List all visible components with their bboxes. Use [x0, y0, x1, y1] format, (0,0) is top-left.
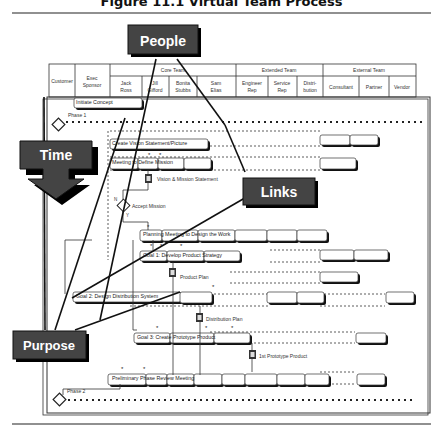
task-review-meeting: Preliminary Phase Review Meeting	[112, 375, 194, 381]
group-external-team: External Team	[353, 67, 385, 73]
milestone-asterisk-icon: *	[231, 325, 234, 331]
task-box	[267, 292, 297, 303]
col-vendor: Vendor	[394, 84, 410, 90]
task-box	[184, 158, 211, 169]
doc-product-plan: Product Plan	[180, 274, 209, 280]
group-extended-team: Extended Team	[262, 67, 297, 73]
decision-label: Accept Mission	[132, 203, 166, 209]
col-consultant: Consultant	[329, 84, 354, 90]
col-exec-1: Exec	[86, 75, 98, 81]
task-box	[320, 158, 356, 169]
links-label: Links	[261, 184, 298, 200]
document-icon	[196, 313, 203, 322]
task-create-vision: Create Vision Statement/Picture	[112, 140, 187, 146]
task-box	[194, 374, 222, 385]
col-sam: Sam	[211, 80, 221, 86]
task-initiate-concept: Initiate Concept	[76, 99, 113, 105]
virtual-team-process-diagram: Customer Exec Sponsor Core Team Extended…	[0, 0, 443, 432]
task-box	[297, 230, 327, 241]
people-callout: People	[128, 25, 201, 57]
task-box	[320, 250, 354, 260]
task-box	[214, 333, 250, 343]
col-exec-2: Sponsor	[83, 82, 102, 88]
col-service: Service	[274, 80, 291, 86]
task-box	[180, 292, 212, 303]
col-jack-2: Ross	[120, 87, 132, 93]
milestone-asterisk-icon: *	[212, 284, 215, 290]
task-box	[386, 292, 414, 303]
task-box	[350, 135, 378, 145]
phase-2-marker: Phase 2	[53, 388, 414, 406]
col-distribution: Distri-	[303, 80, 316, 86]
document-icon	[249, 350, 256, 359]
task-goal-1: Goal 1: Develop Product Strategy	[143, 252, 222, 258]
people-label: People	[140, 33, 186, 49]
decision-no: N	[114, 197, 117, 202]
doc-distribution-plan: Distribution Plan	[206, 316, 243, 322]
milestone-asterisk-icon: *	[159, 152, 162, 158]
doc-vision-mission: Vision & Mission Statement	[157, 176, 218, 182]
task-mission-meeting: Meeting to Define Mission	[112, 159, 173, 165]
task-box	[297, 292, 324, 303]
col-engineer: Engineer	[242, 80, 262, 86]
col-sam-2: Elias	[211, 87, 222, 93]
col-partner: Partner	[366, 84, 383, 90]
col-customer: Customer	[51, 78, 73, 84]
task-box	[356, 333, 386, 343]
group-core-team: Core Team	[161, 67, 185, 73]
task-box	[320, 135, 350, 145]
time-callout: Time	[20, 141, 98, 205]
task-box	[357, 374, 385, 385]
purpose-callout: Purpose	[13, 331, 89, 362]
task-box	[267, 230, 297, 241]
col-jack: Jack	[121, 80, 132, 86]
col-service-2: Rep	[277, 87, 286, 93]
document-icon	[169, 268, 176, 277]
milestone-asterisk-icon: *	[121, 366, 124, 372]
milestone-asterisk-icon: *	[180, 243, 183, 249]
col-bonita-2: Stubbs	[175, 87, 191, 93]
task-box	[354, 250, 388, 260]
task-goal-3: Goal 3: Create Prototype Product	[137, 334, 216, 340]
purpose-label: Purpose	[23, 338, 75, 353]
phase-1-marker: Phase 1	[52, 112, 424, 131]
decision-yes: Y	[126, 213, 129, 218]
milestone-asterisk-icon: *	[156, 325, 159, 331]
col-jill: Jill	[152, 80, 158, 86]
task-box	[305, 374, 329, 385]
task-box	[245, 374, 277, 385]
task-box	[277, 374, 305, 385]
milestone-asterisk-icon: *	[147, 224, 150, 230]
time-label: Time	[40, 147, 73, 163]
col-distribution-2: bution	[303, 87, 317, 93]
col-engineer-2: Rep	[247, 87, 256, 93]
task-box	[235, 230, 267, 241]
doc-first-prototype: 1st Prototype Product	[259, 353, 308, 359]
phase-1-label: Phase 1	[68, 112, 87, 118]
task-box	[320, 272, 358, 282]
document-icon	[145, 174, 152, 183]
milestone-asterisk-icon: *	[143, 366, 146, 372]
task-goal-2: Goal 2: Design Distribution System	[76, 293, 159, 299]
task-box	[222, 374, 245, 385]
links-callout: Links	[243, 178, 318, 208]
milestone-asterisk-icon: *	[150, 243, 153, 249]
milestone-asterisk-icon: *	[205, 325, 208, 331]
col-bonita: Bonita	[176, 80, 190, 86]
